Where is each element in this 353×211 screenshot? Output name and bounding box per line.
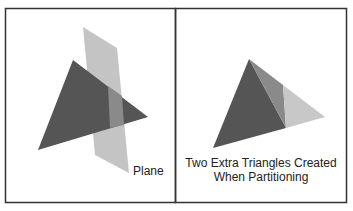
partition-caption-line2: When Partitioning: [176, 170, 346, 184]
partition-caption-line1: Two Extra Triangles Created: [176, 156, 346, 170]
overlap-region: [108, 86, 124, 128]
plane-label: Plane: [133, 164, 164, 178]
partition-triangle-light: [283, 85, 325, 128]
partition-caption: Two Extra Triangles Created When Partiti…: [176, 156, 346, 184]
